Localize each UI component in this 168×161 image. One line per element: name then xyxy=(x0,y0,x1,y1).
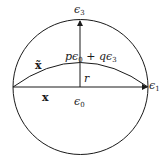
label-e1: ϵ1 xyxy=(149,80,160,93)
label-e0: ϵ0 xyxy=(74,96,85,109)
label-e0-sub: 0 xyxy=(80,101,84,109)
label-e3: ϵ3 xyxy=(74,4,85,17)
label-r: r xyxy=(84,73,89,84)
label-point-e3-sub: 3 xyxy=(112,56,116,64)
label-e3-sub: 3 xyxy=(80,9,84,17)
label-q: q xyxy=(99,50,106,63)
label-plus: + xyxy=(83,50,99,63)
label-x: x xyxy=(42,92,49,103)
label-e1-sub: 1 xyxy=(155,85,159,93)
label-x-tilde: x̃ xyxy=(35,60,42,71)
label-p: p xyxy=(65,50,72,63)
label-point: pϵ0 + qϵ3 xyxy=(65,51,117,64)
